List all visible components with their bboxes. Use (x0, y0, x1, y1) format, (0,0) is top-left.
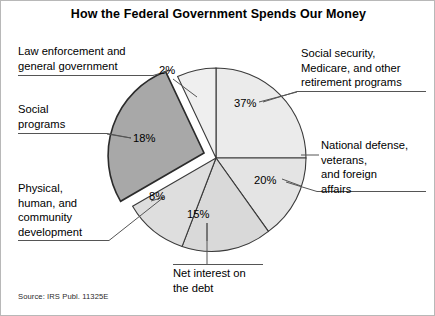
chart-figure: How the Federal Government Spends Our Mo… (0, 0, 435, 316)
pie-label-national-defense: National defense, veterans, and foreign … (321, 138, 431, 196)
pie-label-social-security: Social security, Medicare, and other ret… (301, 46, 426, 90)
pie-value-social-security: 37% (234, 97, 256, 109)
pie-label-net-interest: Net interest on the debt (173, 266, 288, 295)
pie-slice-social-security[interactable] (216, 68, 306, 158)
pie-value-national-defense: 20% (254, 174, 276, 186)
pie-value-net-interest: 15% (187, 208, 209, 220)
pie-value-physical-development: 8% (149, 190, 165, 202)
source-note: Source: IRS Publ. 11325E (18, 292, 108, 301)
pie-value-law-enforcement: 2% (159, 64, 175, 76)
pie-label-physical-development: Physical, human, and community developme… (18, 181, 138, 239)
pie-label-law-enforcement: Law enforcement and general government (18, 44, 168, 73)
pie-label-social-programs: Social programs (18, 102, 138, 131)
pie-value-social-programs: 18% (133, 132, 155, 144)
